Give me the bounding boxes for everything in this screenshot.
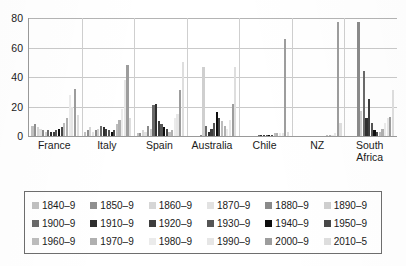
legend-swatch-icon	[324, 220, 331, 227]
y-tick-label: 40	[11, 72, 23, 82]
legend-swatch-icon	[32, 202, 39, 209]
legend-item-label: 1960–9	[42, 236, 75, 247]
legend-item[interactable]: 1860–9	[146, 200, 204, 211]
bar	[77, 115, 79, 136]
y-tick-label: 20	[11, 102, 23, 112]
legend-swatch-icon	[149, 238, 156, 245]
legend-item-label: 1970–9	[100, 236, 133, 247]
legend-item-label: 2000–9	[275, 236, 308, 247]
y-tick-label: 80	[11, 13, 23, 23]
x-category-label: NZ	[291, 140, 344, 152]
x-category-label: Australia	[186, 140, 239, 152]
legend-item-label: 1890–9	[334, 200, 367, 211]
legend-item[interactable]: 2010–5	[321, 236, 379, 247]
legend-item-label: 1840–9	[42, 200, 75, 211]
legend-swatch-icon	[32, 238, 39, 245]
legend-item[interactable]: 1910–9	[87, 218, 145, 229]
legend-item[interactable]: 1980–9	[146, 236, 204, 247]
legend-item[interactable]: 1890–9	[321, 200, 379, 211]
legend-item[interactable]: 1920–9	[146, 218, 204, 229]
legend-swatch-icon	[324, 202, 331, 209]
plot-wrapper: 020406080 FranceItalySpainAustraliaChile…	[0, 0, 406, 160]
legend-swatch-icon	[265, 202, 272, 209]
legend-item[interactable]: 1940–9	[262, 218, 320, 229]
legend-item[interactable]: 2000–9	[262, 236, 320, 247]
legend-swatch-icon	[32, 220, 39, 227]
x-axis-category-labels: FranceItalySpainAustraliaChileNZSouth Af…	[28, 140, 396, 174]
y-tick-label: 0	[17, 131, 23, 141]
legend-item-label: 1860–9	[159, 200, 192, 211]
legend-item[interactable]: 1990–9	[204, 236, 262, 247]
y-tick-label: 60	[11, 43, 23, 53]
legend-item-label: 2010–5	[334, 236, 367, 247]
legend-item[interactable]: 1880–9	[262, 200, 320, 211]
legend-item[interactable]: 1960–9	[29, 236, 87, 247]
legend-item[interactable]: 1970–9	[87, 236, 145, 247]
bar	[182, 62, 184, 136]
legend-swatch-icon	[324, 238, 331, 245]
bar	[339, 123, 341, 136]
legend-swatch-icon	[265, 238, 272, 245]
legend-item-label: 1920–9	[159, 218, 192, 229]
legend-item-label: 1940–9	[275, 218, 308, 229]
legend-swatch-icon	[90, 238, 97, 245]
x-category-label: South Africa	[343, 140, 396, 163]
legend-swatch-icon	[265, 220, 272, 227]
x-category-label: Chile	[238, 140, 291, 152]
legend-item[interactable]: 1950–9	[321, 218, 379, 229]
legend-item[interactable]: 1930–9	[204, 218, 262, 229]
bar	[234, 67, 236, 136]
x-category-label: Italy	[81, 140, 134, 152]
legend-item[interactable]: 1840–9	[29, 200, 87, 211]
bars-layer	[29, 18, 397, 136]
legend-swatch-icon	[207, 238, 214, 245]
bar	[392, 90, 394, 136]
bar-chart: 020406080 FranceItalySpainAustraliaChile…	[0, 0, 406, 266]
legend-item-label: 1900–9	[42, 218, 75, 229]
legend-item-label: 1880–9	[275, 200, 308, 211]
legend-swatch-icon	[90, 220, 97, 227]
legend-swatch-icon	[207, 202, 214, 209]
bar	[129, 118, 131, 136]
legend-item-label: 1850–9	[100, 200, 133, 211]
legend-item-label: 1930–9	[217, 218, 250, 229]
legend-item-label: 1870–9	[217, 200, 250, 211]
legend-swatch-icon	[149, 220, 156, 227]
legend-grid: 1840–91850–91860–91870–91880–91890–91900…	[29, 196, 379, 251]
legend-item[interactable]: 1870–9	[204, 200, 262, 211]
legend: 1840–91850–91860–91870–91880–91890–91900…	[24, 191, 382, 254]
legend-item-label: 1910–9	[100, 218, 133, 229]
legend-item-label: 1990–9	[217, 236, 250, 247]
legend-item[interactable]: 1900–9	[29, 218, 87, 229]
plot-area	[28, 18, 397, 137]
legend-item[interactable]: 1850–9	[87, 200, 145, 211]
x-category-label: Spain	[133, 140, 186, 152]
legend-swatch-icon	[207, 220, 214, 227]
legend-swatch-icon	[149, 202, 156, 209]
x-category-label: France	[28, 140, 81, 152]
bar	[287, 132, 289, 136]
legend-item-label: 1950–9	[334, 218, 367, 229]
y-axis-tick-labels: 020406080	[0, 0, 26, 160]
bar	[284, 39, 286, 136]
legend-item-label: 1980–9	[159, 236, 192, 247]
bar	[337, 22, 339, 136]
legend-swatch-icon	[90, 202, 97, 209]
